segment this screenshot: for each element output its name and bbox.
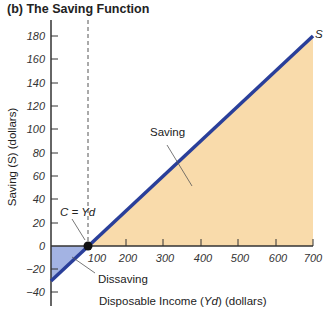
s-curve-label: S	[315, 28, 323, 40]
x-axis-title: Disposable Income (Yd) (dollars)	[99, 295, 267, 307]
saving-function-chart: 180 160 140 120 100 80 60 40 20 0 −20 −4…	[0, 0, 324, 316]
svg-text:40: 40	[33, 193, 46, 205]
c-eq-yd-label: C = Yd	[60, 206, 96, 218]
svg-text:120: 120	[27, 100, 46, 112]
dissaving-label: Dissaving	[98, 273, 148, 285]
svg-text:0: 0	[39, 240, 46, 252]
x-tick-labels: 100 200 300 400 500 600 700	[88, 252, 323, 264]
y-axis-title: Saving (S) (dollars)	[6, 108, 18, 207]
break-even-point	[84, 242, 93, 251]
svg-text:160: 160	[27, 53, 46, 65]
svg-text:100: 100	[27, 123, 46, 135]
c-eq-yd-leader-line	[72, 219, 85, 240]
svg-text:80: 80	[33, 147, 46, 159]
svg-text:−20: −20	[26, 263, 46, 275]
svg-text:180: 180	[27, 30, 46, 42]
svg-text:140: 140	[27, 77, 46, 89]
svg-text:300: 300	[156, 252, 175, 264]
svg-text:400: 400	[194, 252, 213, 264]
svg-text:700: 700	[304, 252, 323, 264]
svg-text:100: 100	[88, 252, 107, 264]
saving-label: Saving	[150, 126, 185, 138]
svg-text:60: 60	[33, 170, 46, 182]
svg-text:500: 500	[231, 252, 250, 264]
y-tick-labels: 180 160 140 120 100 80 60 40 20 0 −20 −4…	[26, 30, 46, 298]
svg-text:600: 600	[269, 252, 288, 264]
svg-text:200: 200	[118, 252, 138, 264]
svg-text:−40: −40	[26, 286, 46, 298]
svg-text:20: 20	[32, 217, 46, 229]
